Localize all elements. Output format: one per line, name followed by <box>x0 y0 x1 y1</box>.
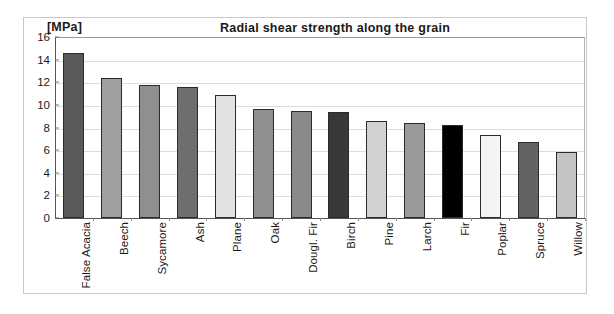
x-axis-tick-label: Dougl. Fir <box>307 222 319 273</box>
x-axis-tick-label: Willow <box>572 222 584 256</box>
x-axis-tick-label: Poplar <box>496 222 508 256</box>
x-axis-tick-mark <box>434 218 435 221</box>
x-axis-tick-label: Sycamore <box>156 222 168 275</box>
x-axis-labels: False AcaciaBeechSycamoreAshPlaneOakDoug… <box>55 222 585 310</box>
x-axis-tick-label: Oak <box>269 222 281 243</box>
chart-figure: [MPa] Radial shear strength along the gr… <box>0 0 614 314</box>
chart-title: Radial shear strength along the grain <box>150 21 520 35</box>
y-axis-tick-label: 0 <box>24 212 50 224</box>
x-axis-tick-mark <box>547 218 548 221</box>
bar <box>442 125 463 218</box>
x-axis-tick-label: Birch <box>345 222 357 249</box>
x-axis-tick-mark <box>471 218 472 221</box>
y-axis: 1614121086420 <box>22 0 50 314</box>
bar <box>518 142 539 218</box>
x-axis-tick-label: Larch <box>421 222 433 251</box>
x-axis-tick-mark <box>585 218 586 221</box>
bar <box>480 135 501 218</box>
x-axis-tick-mark <box>244 218 245 221</box>
bar <box>63 53 84 218</box>
x-axis-tick-label: Pine <box>383 222 395 245</box>
y-axis-tick-label: 4 <box>24 167 50 179</box>
x-axis-tick-mark <box>206 218 207 221</box>
x-axis-tick-label: False Acacia <box>80 222 92 288</box>
x-axis-tick-mark <box>396 218 397 221</box>
y-axis-tick-label: 6 <box>24 144 50 156</box>
x-axis-tick-mark <box>131 218 132 221</box>
x-axis-tick-label: Ash <box>194 222 206 242</box>
bar <box>215 95 236 218</box>
x-axis-tick-label: Plane <box>231 222 243 252</box>
bar <box>101 78 122 218</box>
y-axis-tick-label: 8 <box>24 122 50 134</box>
y-axis-tick-label: 10 <box>24 99 50 111</box>
y-axis-tick-label: 12 <box>24 76 50 88</box>
x-axis-tick-label: Beech <box>118 222 130 255</box>
x-axis-tick-mark <box>282 218 283 221</box>
x-axis-tick-mark <box>320 218 321 221</box>
x-axis-tick-label: Spruce <box>534 222 546 259</box>
bar <box>404 123 425 218</box>
bar <box>253 109 274 218</box>
bar <box>556 152 577 218</box>
bar <box>177 87 198 218</box>
bar <box>291 111 312 218</box>
bar <box>139 85 160 218</box>
x-axis-tick-mark <box>509 218 510 221</box>
bar <box>328 112 349 218</box>
y-axis-tick-label: 14 <box>24 54 50 66</box>
y-axis-units-label: [MPa] <box>47 20 82 34</box>
y-axis-tick-label: 2 <box>24 189 50 201</box>
y-axis-tick-label: 16 <box>24 31 50 43</box>
x-axis-tick-label: Fir <box>459 222 471 236</box>
bar <box>366 121 387 218</box>
x-axis-tick-mark <box>93 218 94 221</box>
bar-series <box>55 37 585 218</box>
x-axis-tick-mark <box>358 218 359 221</box>
x-axis-tick-mark <box>169 218 170 221</box>
